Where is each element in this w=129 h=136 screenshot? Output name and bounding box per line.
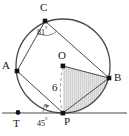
label-radius-value: 6 [52,82,58,93]
geometry-figure: C A B O P T 6 81° 45° [0,0,129,136]
label-point-a: A [2,60,10,71]
label-point-b: B [114,72,121,83]
label-angle-at-c: 81° [37,26,47,37]
label-center-o: O [58,50,66,61]
vertex-dot-b [107,76,112,81]
label-point-t: T [13,118,20,129]
label-point-p: P [64,116,70,127]
vertex-dot-t [16,110,21,115]
angle-arc-at-p [43,104,45,112]
degree-symbol-c: ° [45,26,47,32]
label-point-c: C [40,2,47,13]
degree-symbol-p: ° [45,117,47,123]
vertex-dot-a [15,69,20,74]
label-angle-at-p: 45° [37,117,47,128]
angle-arrow-at-p [45,104,50,108]
dashed-radius-op [60,67,63,112]
vertex-dot-c [43,19,48,24]
shaded-region [63,66,109,113]
angle-c-value: 81 [37,28,45,37]
angle-p-value: 45 [37,119,45,128]
vertex-dot-o [61,64,66,69]
